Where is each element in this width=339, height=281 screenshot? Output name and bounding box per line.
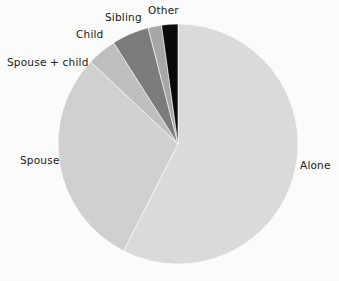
pie-label-spouse-child: Spouse + child	[7, 57, 89, 68]
pie-label-spouse: Spouse	[20, 155, 60, 166]
pie-chart-canvas	[0, 0, 339, 281]
pie-label-alone: Alone	[300, 160, 331, 171]
pie-slice-group	[58, 24, 298, 264]
pie-chart-figure: Alone Spouse Spouse + child Child Siblin…	[0, 0, 339, 281]
pie-label-child: Child	[76, 29, 104, 40]
pie-label-sibling: Sibling	[105, 12, 142, 23]
pie-label-other: Other	[148, 5, 179, 16]
